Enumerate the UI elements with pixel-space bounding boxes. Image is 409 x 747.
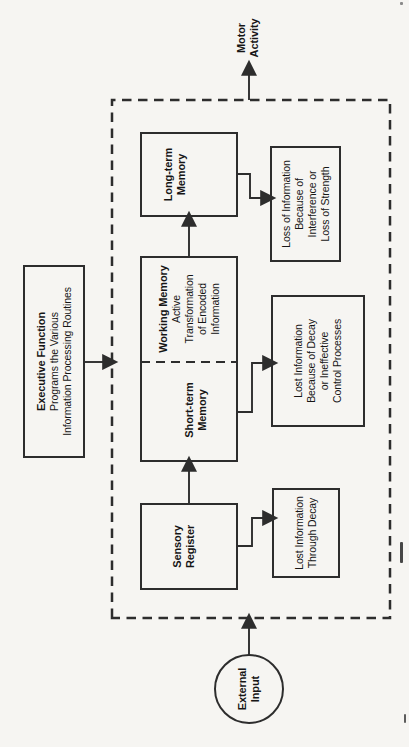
working-memory-line: Information <box>209 283 222 334</box>
long-term-memory-label: Long-term <box>162 148 175 201</box>
executive-function-title: Executive Function <box>35 312 48 411</box>
loss-long-term-line: Loss of Strength <box>319 167 332 242</box>
external-input-line: Input <box>249 676 262 702</box>
working-memory-title: Working Memory <box>157 265 170 353</box>
loss-short-term-line: Lost Information <box>292 324 305 398</box>
scan-artifact <box>400 542 403 563</box>
node-external-input: External Input <box>214 654 284 724</box>
node-loss-sensory: Lost Information Through Decay <box>272 488 340 578</box>
node-long-term-memory: Long-term Memory <box>140 132 238 217</box>
loss-short-term-line: Control Processes <box>331 319 344 403</box>
node-loss-short-term: Lost Information Because of Decay or Ine… <box>271 295 365 427</box>
sensory-register-label: Register <box>184 525 197 568</box>
external-input-line: External <box>236 668 249 711</box>
loss-sensory-line: Through Decay <box>306 498 319 569</box>
long-term-memory-label: Memory <box>175 154 188 196</box>
working-memory-line: Transformation <box>183 275 196 344</box>
loss-sensory-line: Lost Information <box>293 496 306 570</box>
scan-artifact <box>400 2 403 5</box>
sensory-register-label: Sensory <box>171 525 184 568</box>
motor-activity-line: Activity <box>248 19 261 58</box>
diagram-canvas: Executive Function Programs the Various … <box>0 0 409 747</box>
node-loss-long-term: Loss of Information Because of Interfere… <box>270 146 341 262</box>
short-term-memory-label: Short-term <box>183 382 196 437</box>
scanned-page: Executive Function Programs the Various … <box>0 0 409 747</box>
node-short-term-working-memory: Short-term Memory Working Memory Active … <box>140 256 238 462</box>
connector-shortterm-to-loss <box>238 363 263 412</box>
executive-function-line: Programs the Various <box>48 312 61 411</box>
loss-long-term-line: Interference or <box>306 171 319 238</box>
label-motor-activity: Motor Activity <box>234 14 262 62</box>
node-sensory-register: Sensory Register <box>140 503 238 590</box>
node-executive-function: Executive Function Programs the Various … <box>23 265 85 458</box>
working-memory-line: Active <box>170 295 183 323</box>
loss-long-term-line: Loss of Information <box>280 160 293 247</box>
short-term-memory-section: Short-term Memory <box>142 360 236 460</box>
loss-short-term-line: Because of Decay <box>305 319 318 403</box>
connector-longterm-to-loss <box>238 174 261 198</box>
loss-short-term-line: or Ineffective <box>318 332 331 391</box>
loss-long-term-line: Because of <box>293 178 306 230</box>
connector-sensory-to-loss <box>238 518 263 546</box>
motor-activity-line: Motor <box>235 23 248 53</box>
short-term-memory-label: Memory <box>196 389 209 431</box>
scan-artifact <box>404 714 406 723</box>
executive-function-line: Information Processing Routines <box>61 287 74 436</box>
working-memory-line: of Encoded <box>196 283 209 335</box>
working-memory-section: Working Memory Active Transformation of … <box>142 258 236 360</box>
